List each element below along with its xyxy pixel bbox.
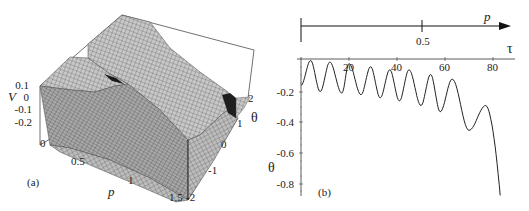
z-tick-0-1: 0.1 bbox=[15, 79, 29, 91]
x-tick-1: 1 bbox=[128, 174, 134, 186]
tau-tick-60: 60 bbox=[439, 61, 451, 73]
theta-tau-curve bbox=[301, 61, 500, 196]
x-axis-label-p: p bbox=[107, 184, 115, 199]
z-tick-neg-0-1: -0.1 bbox=[15, 103, 32, 115]
panel-a-surface-plot: 0.1 V 0 -0.1 -0.2 0 0.5 1 1.5 p -2 -1 0 … bbox=[8, 15, 258, 203]
x-tick-0-5: 0.5 bbox=[71, 155, 85, 167]
panel-label-b: (b) bbox=[318, 186, 331, 199]
tau-axis-label: τ bbox=[507, 41, 513, 56]
y-axis-label-theta: θ bbox=[251, 110, 258, 125]
tau-axis: τ 20 40 60 80 bbox=[297, 41, 515, 73]
theta-axis: -0.2 -0.4 -0.6 -0.8 θ bbox=[268, 57, 303, 196]
p-axis-label: p bbox=[483, 9, 491, 24]
z-axis-label-V: V bbox=[8, 89, 18, 104]
y-tick-neg-1: -1 bbox=[208, 164, 217, 176]
figure: 0.1 V 0 -0.1 -0.2 0 0.5 1 1.5 p -2 -1 0 … bbox=[0, 0, 529, 211]
theta-tick-neg-0-4: -0.4 bbox=[277, 116, 295, 128]
y-tick-2: 2 bbox=[248, 92, 254, 104]
tau-tick-40: 40 bbox=[391, 61, 403, 73]
y-tick-0: 0 bbox=[221, 138, 227, 150]
theta-tick-neg-0-8: -0.8 bbox=[277, 178, 295, 190]
z-tick-0: 0 bbox=[24, 91, 30, 103]
theta-axis-label: θ bbox=[268, 160, 275, 175]
x-tick-1-5: 1.5 bbox=[169, 191, 183, 203]
theta-tick-neg-0-6: -0.6 bbox=[277, 147, 295, 159]
x-tick-0: 0 bbox=[40, 137, 46, 149]
arrow-head-icon bbox=[499, 22, 511, 30]
p-tick-0-5: 0.5 bbox=[416, 35, 430, 47]
tau-tick-80: 80 bbox=[487, 61, 499, 73]
y-tick-neg-2: -2 bbox=[186, 191, 195, 203]
theta-tick-neg-0-2: -0.2 bbox=[277, 86, 294, 98]
z-tick-neg-0-2: -0.2 bbox=[15, 116, 32, 128]
panel-label-a: (a) bbox=[27, 176, 40, 189]
panel-b-line-chart: p 0.5 τ 20 40 60 80 bbox=[268, 9, 515, 199]
p-axis: p 0.5 bbox=[301, 9, 511, 47]
y-tick-1: 1 bbox=[237, 117, 243, 129]
